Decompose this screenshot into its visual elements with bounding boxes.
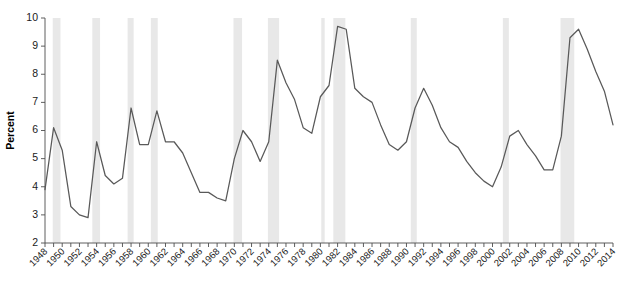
x-tick-label: 1996 [440, 246, 463, 269]
unemployment-rate-chart: 2345678910 19481950195219541956195819601… [0, 0, 618, 284]
x-tick-label: 1980 [302, 246, 325, 269]
x-tick-label: 1948 [27, 246, 50, 269]
x-tick-label: 1964 [164, 246, 187, 269]
y-axis-title: Percent [4, 111, 16, 150]
y-tick-label: 4 [32, 180, 38, 192]
chart-canvas: 2345678910 19481950195219541956195819601… [0, 0, 618, 284]
recession-band [333, 18, 345, 243]
x-tick-label: 1988 [371, 246, 394, 269]
y-tick-label: 9 [32, 39, 38, 51]
x-tick-label: 2012 [577, 246, 600, 269]
recession-band [503, 18, 509, 243]
recession-band [233, 18, 242, 243]
x-axis: 1948195019521954195619581960196219641966… [27, 243, 618, 268]
x-tick-label: 1962 [147, 246, 170, 269]
y-tick-label: 6 [32, 123, 38, 135]
x-tick-label: 1976 [268, 246, 291, 269]
x-tick-label: 1968 [199, 246, 222, 269]
x-tick-label: 2014 [595, 246, 618, 269]
y-tick-label: 3 [32, 208, 38, 220]
recession-band [92, 18, 100, 243]
x-tick-label: 1952 [61, 246, 84, 269]
y-tick-label: 7 [32, 95, 38, 107]
x-tick-label: 1990 [388, 246, 411, 269]
x-tick-label: 1986 [354, 246, 377, 269]
x-tick-label: 1974 [250, 246, 273, 269]
x-tick-label: 2010 [560, 246, 583, 269]
x-tick-label: 1956 [96, 246, 119, 269]
recession-band [411, 18, 417, 243]
x-tick-label: 1954 [78, 246, 101, 269]
x-tick-label: 2000 [474, 246, 497, 269]
recession-bands-group [53, 18, 575, 243]
x-tick-label: 2004 [509, 246, 532, 269]
x-tick-label: 2006 [526, 246, 549, 269]
recession-band [53, 18, 61, 243]
y-tick-label: 8 [32, 67, 38, 79]
x-tick-label: 2002 [491, 246, 514, 269]
x-tick-label: 1972 [233, 246, 256, 269]
x-tick-label: 2008 [543, 246, 566, 269]
y-tick-label: 2 [32, 236, 38, 248]
x-tick-label: 1998 [457, 246, 480, 269]
x-tick-label: 1958 [113, 246, 136, 269]
x-tick-label: 1950 [44, 246, 67, 269]
x-tick-label: 1994 [423, 246, 446, 269]
x-tick-label: 1992 [405, 246, 428, 269]
x-tick-label: 1970 [216, 246, 239, 269]
x-tick-label: 1984 [337, 246, 360, 269]
recession-band [561, 18, 575, 243]
y-tick-label: 5 [32, 151, 38, 163]
x-tick-label: 1966 [182, 246, 205, 269]
y-axis: 2345678910 [26, 11, 45, 248]
x-tick-label: 1960 [130, 246, 153, 269]
x-tick-label: 1982 [319, 246, 342, 269]
y-tick-label: 10 [26, 11, 38, 23]
x-tick-label: 1978 [285, 246, 308, 269]
recession-band [321, 18, 324, 243]
